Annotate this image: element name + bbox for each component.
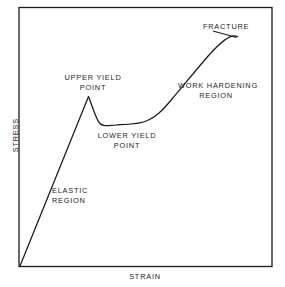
y-axis-label: STRESS xyxy=(11,105,21,165)
stress-strain-diagram: FRACTURE UPPER YIELDPOINT LOWER YIELDPOI… xyxy=(0,0,285,287)
annotation-upper-yield-point-line1: UPPER YIELD xyxy=(65,73,122,82)
annotation-lower-yield-point: LOWER YIELDPOINT xyxy=(86,131,168,152)
annotation-elastic-region: ELASTICREGION xyxy=(52,186,88,207)
annotation-work-hardening-line1: WORK HARDENING xyxy=(178,81,258,90)
annotation-work-hardening-line2: REGION xyxy=(199,91,233,100)
annotation-upper-yield-point-line2: POINT xyxy=(80,83,106,92)
annotation-elastic-line2: REGION xyxy=(52,196,86,205)
annotation-lower-yield-point-line2: POINT xyxy=(114,141,140,150)
annotation-upper-yield-point: UPPER YIELDPOINT xyxy=(52,73,134,94)
annotation-lower-yield-point-line1: LOWER YIELD xyxy=(98,131,157,140)
x-axis-label: STRAIN xyxy=(105,272,185,282)
annotation-elastic-line1: ELASTIC xyxy=(52,186,88,195)
annotation-work-hardening-region: WORK HARDENINGREGION xyxy=(178,81,254,102)
annotation-fracture: FRACTURE xyxy=(203,22,249,32)
